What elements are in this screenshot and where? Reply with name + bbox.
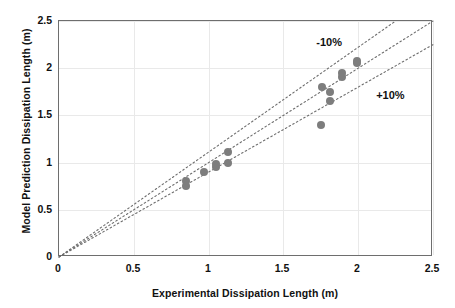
- x-tick-label-0: 0: [38, 262, 78, 274]
- gridline-vertical: [433, 21, 434, 255]
- y-tick-label-1.5: 1.5: [18, 108, 52, 120]
- x-tick-label-1.5: 1.5: [262, 262, 302, 274]
- scatter-chart-figure: Model Prediction Dissipation Length (m) …: [0, 0, 455, 308]
- data-point: [317, 121, 325, 129]
- reference-line-parity: [59, 21, 433, 257]
- x-axis-title: Experimental Dissipation Length (m): [58, 287, 432, 299]
- reference-lines-layer: [59, 21, 433, 257]
- data-point: [212, 160, 220, 168]
- data-point: [200, 168, 208, 176]
- y-axis-title: Model Prediction Dissipation Length (m): [20, 11, 32, 251]
- x-tick-label-2: 2: [337, 262, 377, 274]
- data-point: [353, 57, 361, 65]
- annotation-minus-10-percent: -10%: [316, 36, 342, 48]
- y-tick-label-2: 2: [18, 61, 52, 73]
- reference-line-plus-10-percent: [59, 45, 433, 257]
- plot-area: -10% +10%: [58, 20, 432, 256]
- data-point: [224, 159, 232, 167]
- annotation-plus-10-percent: +10%: [376, 89, 404, 101]
- data-point: [338, 69, 346, 77]
- data-point: [326, 88, 334, 96]
- data-point: [326, 97, 334, 105]
- y-tick-label-2.5: 2.5: [18, 14, 52, 26]
- y-tick-label-0.5: 0.5: [18, 203, 52, 215]
- reference-line-minus-10-percent: [59, 21, 396, 257]
- x-tick-label-0.5: 0.5: [113, 262, 153, 274]
- y-tick-label-1: 1: [18, 156, 52, 168]
- y-tick-label-0: 0: [18, 250, 52, 262]
- x-tick-label-1: 1: [188, 262, 228, 274]
- x-tick-label-2.5: 2.5: [412, 262, 452, 274]
- data-point: [182, 177, 190, 185]
- data-point: [224, 148, 232, 156]
